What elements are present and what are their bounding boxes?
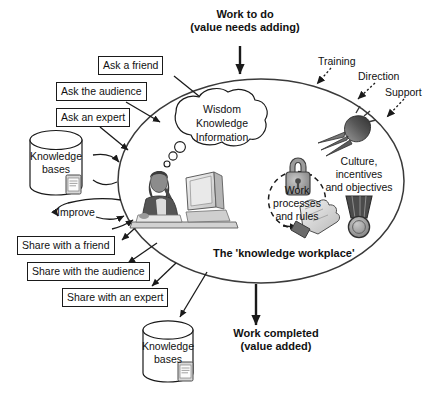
improve-label: Improve <box>57 206 95 219</box>
workplace-to-kb-bottom-arrow <box>180 272 207 317</box>
work-to-do-line2: (value needs adding) <box>180 21 310 34</box>
direction-arrow <box>358 83 375 99</box>
share-with-an-expert-arrow <box>152 263 176 286</box>
work-to-do-label: Work to do (value needs adding) <box>180 8 310 34</box>
share-with-a-friend-label[interactable]: Share with a friend <box>17 236 115 255</box>
work-completed-line1: Work completed <box>206 327 346 340</box>
support-label: Support <box>385 86 422 99</box>
share-with-the-audience-label[interactable]: Share with the audience <box>27 262 150 281</box>
culture-line1: Culture, <box>313 155 405 168</box>
training-label: Training <box>318 55 356 68</box>
monitor-icon <box>186 172 224 210</box>
work-to-do-line1: Work to do <box>180 8 310 21</box>
ask-a-friend-label[interactable]: Ask a friend <box>98 56 163 75</box>
wp-line3: and rules <box>264 210 330 223</box>
culture-line2: incentives <box>313 168 405 181</box>
work-completed-line2: (value added) <box>206 340 346 353</box>
ask-an-expert-arrow <box>100 127 128 150</box>
direction-label: Direction <box>358 70 399 83</box>
work-completed-label: Work completed (value added) <box>206 327 346 353</box>
bubble-line1: Wisdom <box>178 102 266 116</box>
worker-at-desk-image <box>130 171 238 228</box>
wp-line2: processes <box>264 197 330 210</box>
kb-top-to-workplace-arrow <box>93 154 119 162</box>
culture-label: Culture, incentives and objectives <box>313 155 405 194</box>
ask-the-audience-label[interactable]: Ask the audience <box>56 82 147 101</box>
kb-top-line2: bases <box>20 163 92 176</box>
improve-loop-out <box>96 216 124 219</box>
medal-icon <box>346 196 372 238</box>
diagram-canvas: Work to do (value needs adding) Work com… <box>0 0 444 398</box>
share-with-an-expert-label[interactable]: Share with an expert <box>62 288 168 307</box>
support-arrow <box>387 99 404 117</box>
bubble-line2: Knowledge <box>178 116 266 130</box>
knowledge-workplace-caption: The 'knowledge workplace' <box>213 247 355 260</box>
workplace-to-kb-top-arrow <box>93 180 117 185</box>
share-with-the-audience-arrow <box>128 243 157 263</box>
knowledge-base-bottom-label: Knowledge bases <box>133 340 203 366</box>
carrot-icon <box>318 106 376 156</box>
kb-bottom-line1: Knowledge <box>133 340 203 353</box>
bubble-line3: Information <box>178 130 266 144</box>
knowledge-base-top-label: Knowledge bases <box>20 150 92 176</box>
culture-line3: and objectives <box>313 181 405 194</box>
kb-bottom-line2: bases <box>133 353 203 366</box>
training-arrow <box>317 68 331 84</box>
kb-top-line1: Knowledge <box>20 150 92 163</box>
tablet-document-icon <box>66 175 81 194</box>
ask-an-expert-label[interactable]: Ask an expert <box>56 108 130 127</box>
thought-bubble-label: Wisdom Knowledge Information <box>178 102 266 144</box>
